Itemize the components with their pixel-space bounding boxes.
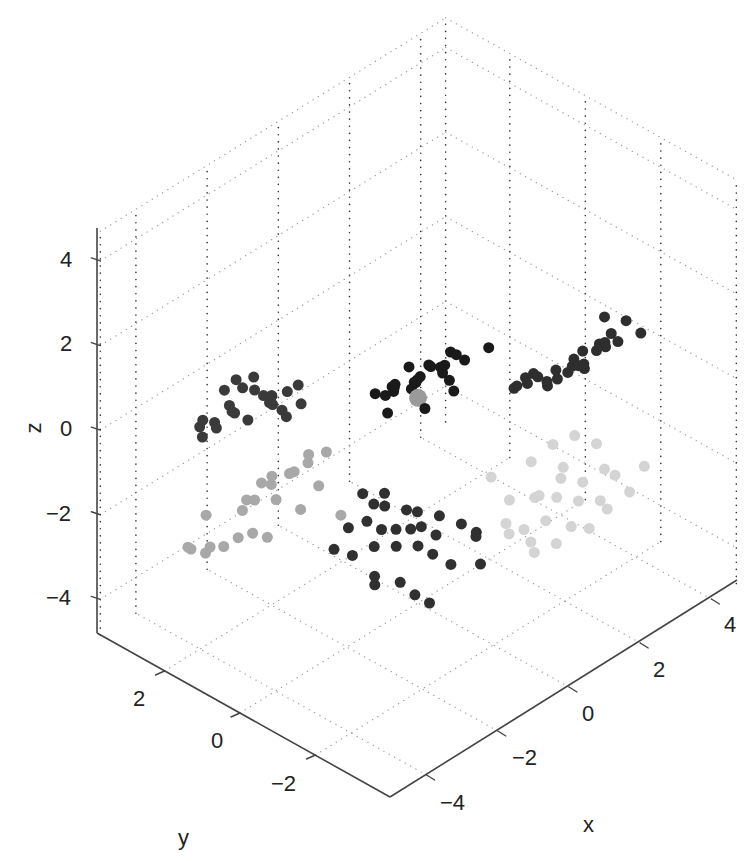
- data-point-cluster-top: [390, 379, 401, 390]
- data-point-cluster-bottom: [409, 589, 420, 600]
- data-point-cluster-bottom: [412, 506, 423, 517]
- data-point-cluster-right-upper: [599, 311, 610, 322]
- data-point-cluster-right-lower: [577, 477, 588, 488]
- data-point-cluster-right-lower: [566, 521, 577, 532]
- data-point-cluster-bottom: [416, 521, 427, 532]
- data-point-cluster-bottom: [405, 524, 416, 535]
- data-point-cluster-right-lower: [504, 495, 515, 506]
- data-point-cluster-left-lower: [335, 510, 346, 521]
- data-point-cluster-left-lower: [303, 449, 314, 460]
- data-point-cluster-bottom: [379, 501, 390, 512]
- x-tick-label: 4: [724, 612, 736, 637]
- data-point-cluster-right-lower: [504, 528, 515, 539]
- data-point-cluster-top: [419, 403, 430, 414]
- z-tick: [91, 427, 100, 430]
- data-point-cluster-bottom: [424, 598, 435, 609]
- grid-line: [446, 18, 737, 180]
- z-tick: [91, 258, 100, 261]
- data-point-cluster-left-lower: [256, 477, 267, 488]
- data-point-cluster-left-lower: [186, 544, 197, 555]
- data-point-cluster-left-lower: [249, 495, 260, 506]
- data-point-cluster-left-upper: [293, 380, 304, 391]
- y-tick: [156, 671, 165, 675]
- x-tick: [498, 731, 506, 736]
- x-tick-label: 0: [582, 701, 594, 726]
- data-point-cluster-right-lower: [558, 462, 569, 473]
- grid-line: [316, 542, 661, 755]
- data-point-cluster-bottom: [357, 488, 368, 499]
- data-point-cluster-bottom: [434, 510, 445, 521]
- data-point-cluster-left-lower: [233, 532, 244, 543]
- z-tick-label: −4: [46, 585, 71, 610]
- data-point-cluster-bottom: [368, 499, 379, 510]
- y-tick-label: −2: [271, 771, 296, 796]
- data-point-cluster-left-lower: [201, 510, 212, 521]
- y-axis-label: y: [178, 825, 189, 850]
- data-point-cluster-left-upper: [197, 415, 208, 426]
- grid-line: [350, 481, 641, 643]
- data-point-cluster-bottom: [431, 530, 442, 541]
- data-point-cluster-right-lower: [534, 490, 545, 501]
- grid-line: [165, 458, 510, 671]
- data-point-cluster-right-lower: [486, 472, 497, 483]
- data-point-cluster-right-lower: [624, 486, 635, 497]
- x-tick: [711, 599, 719, 604]
- data-point-cluster-left-lower: [321, 447, 332, 458]
- x-tick-label: 2: [653, 657, 665, 682]
- data-point-cluster-left-upper: [237, 382, 248, 393]
- data-point-cluster-right-lower: [599, 464, 610, 475]
- x-tick: [569, 687, 577, 692]
- data-point-cluster-bottom: [369, 579, 380, 590]
- data-point-cluster-top: [425, 361, 436, 372]
- data-point-cluster-right-lower: [573, 496, 584, 507]
- data-point-cluster-right-upper: [522, 378, 533, 389]
- data-point-cluster-right-lower: [602, 504, 613, 515]
- data-point-cluster-right-lower: [639, 461, 650, 472]
- z-tick-label: 4: [60, 247, 72, 272]
- data-point-cluster-top: [415, 371, 426, 382]
- x-axis-label: x: [583, 812, 594, 837]
- data-point-cluster-right-lower: [569, 430, 580, 441]
- data-point-cluster-right-lower: [610, 470, 621, 481]
- data-point-cluster-left-upper: [242, 415, 253, 426]
- z-tick-label: 0: [60, 416, 72, 441]
- data-point-cluster-top: [382, 408, 393, 419]
- data-point-cluster-bottom: [401, 504, 412, 515]
- data-point-cluster-left-lower: [262, 532, 273, 543]
- data-point-cluster-left-upper: [248, 372, 259, 383]
- grid-line: [421, 437, 712, 599]
- z-tick: [91, 512, 100, 515]
- grid-line: [100, 18, 445, 231]
- data-point-cluster-right-lower: [584, 523, 595, 534]
- data-point-cluster-right-lower: [551, 492, 562, 503]
- data-point-cluster-right-upper: [612, 336, 623, 347]
- grid-line: [100, 386, 445, 599]
- grid-line: [446, 217, 737, 379]
- data-point-cluster-left-lower: [218, 541, 229, 552]
- grid-line: [446, 132, 737, 294]
- data-point-cluster-bottom: [361, 516, 372, 527]
- data-point-cluster-bottom: [471, 531, 482, 542]
- data-points: [182, 311, 649, 608]
- data-point-cluster-top: [444, 375, 455, 386]
- data-point-cluster-right-upper: [578, 359, 589, 370]
- data-point-cluster-right-upper: [550, 365, 561, 376]
- data-point-cluster-bottom: [369, 541, 380, 552]
- grid-line: [136, 613, 427, 775]
- grid-line: [446, 301, 737, 463]
- data-point-cluster-right-lower: [540, 515, 551, 526]
- data-point-cluster-left-lower: [313, 480, 324, 491]
- z-tick-label: 2: [60, 331, 72, 356]
- grid-line: [278, 525, 569, 687]
- data-point-cluster-bottom: [376, 524, 387, 535]
- x-tick: [640, 643, 648, 648]
- grid-line: [446, 48, 737, 210]
- data-point-cluster-bottom: [475, 559, 486, 570]
- data-point-cluster-right-lower: [501, 518, 512, 529]
- data-point-cluster-bottom: [329, 544, 340, 555]
- data-point-cluster-left-lower: [295, 504, 306, 515]
- data-point-cluster-bottom: [395, 577, 406, 588]
- data-point-cluster-right-upper: [511, 380, 522, 391]
- z-axis-label: z: [21, 423, 46, 434]
- data-point-cluster-left-lower: [247, 528, 258, 539]
